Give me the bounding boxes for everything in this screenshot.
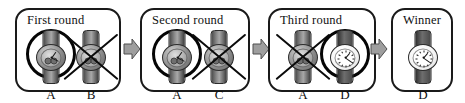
watch-dial xyxy=(335,48,356,67)
watch-case xyxy=(288,44,318,71)
watch-case xyxy=(330,44,360,71)
watch-case xyxy=(162,44,192,71)
slot-D-winner: D xyxy=(394,28,452,86)
slot-C-round2: C xyxy=(191,28,247,86)
watch-dial xyxy=(209,48,230,67)
slot-B-round1: B xyxy=(63,28,119,86)
watch-pivot xyxy=(344,57,346,59)
watch-dial xyxy=(81,48,102,67)
watch-pivot xyxy=(176,57,178,59)
slot-label: B xyxy=(63,87,119,103)
slot-D-round3: D xyxy=(317,28,373,86)
watch-case xyxy=(204,44,234,71)
slot-label: D xyxy=(394,87,452,103)
watch-dark-metal xyxy=(75,30,107,84)
watch-white-dial xyxy=(329,30,361,84)
panel-title: Winner xyxy=(393,13,451,28)
panel-third-round: Third round A xyxy=(268,8,376,92)
watch-pivot xyxy=(50,57,52,59)
watch-pivot xyxy=(90,57,92,59)
slot-label: D xyxy=(317,87,373,103)
arrow-right-icon xyxy=(370,38,388,60)
panel-title: Third round xyxy=(270,13,384,28)
watch-case xyxy=(76,44,106,71)
watch-white-dial xyxy=(407,30,439,84)
watch-dark-metal xyxy=(203,30,235,84)
slot-label: C xyxy=(191,87,247,103)
watch-dial xyxy=(293,48,314,67)
panel-title: First round xyxy=(17,13,129,28)
panel-first-round: First round A xyxy=(15,8,121,92)
panel-winner: Winner xyxy=(391,8,453,92)
watch-chronograph-dark xyxy=(161,30,193,84)
watch-chronograph-dark xyxy=(287,30,319,84)
watch-dial xyxy=(41,48,62,67)
watch-dial xyxy=(167,48,188,67)
bracket-diagram: First round A xyxy=(0,0,465,103)
arrow-right-icon xyxy=(123,38,141,60)
panel-second-round: Second round A xyxy=(140,8,250,92)
watch-case xyxy=(36,44,66,71)
watch-case xyxy=(408,44,438,71)
watch-pivot xyxy=(422,57,424,59)
watch-pivot xyxy=(302,57,304,59)
watch-dial xyxy=(413,48,434,67)
panel-title: Second round xyxy=(142,13,258,28)
watch-pivot xyxy=(218,57,220,59)
